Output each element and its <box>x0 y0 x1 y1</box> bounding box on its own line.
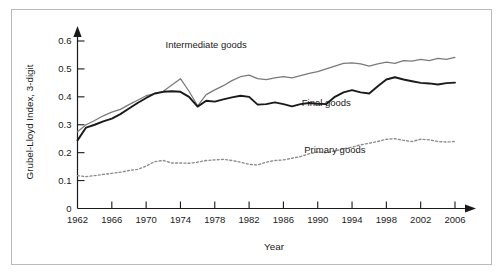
y-tick-label: 0.4 <box>58 91 71 102</box>
x-axis-arrow-icon <box>465 204 476 212</box>
x-tick-label: 1994 <box>341 214 362 225</box>
y-axis-ticks: 00.10.20.30.40.50.6 <box>58 35 84 214</box>
y-tick-label: 0.1 <box>58 175 71 186</box>
series-line-intermediate-goods <box>78 57 456 131</box>
x-tick-label: 1974 <box>170 214 191 225</box>
x-tick-label: 1970 <box>136 214 157 225</box>
y-axis-title: Grubel-Lloyd Index, 3-digit <box>24 64 35 179</box>
y-axis-arrow-icon <box>73 26 81 37</box>
y-tick-label: 0.5 <box>58 63 71 74</box>
x-tick-label: 1978 <box>204 214 225 225</box>
x-tick-label: 1966 <box>101 214 122 225</box>
x-tick-label: 1998 <box>376 214 397 225</box>
y-tick-label: 0.3 <box>58 119 71 130</box>
x-tick-label: 2006 <box>444 214 465 225</box>
series-paths <box>78 57 456 176</box>
x-axis-ticks: 1962196619701974197819821986199019941998… <box>67 202 466 225</box>
figure-frame: 00.10.20.30.40.50.6 19621966197019741978… <box>11 9 492 265</box>
x-tick-label: 2002 <box>410 214 431 225</box>
y-tick-label: 0.2 <box>58 147 71 158</box>
series-line-final-goods <box>78 77 456 140</box>
x-tick-label: 1986 <box>273 214 294 225</box>
x-tick-label: 1990 <box>307 214 328 225</box>
axes <box>73 26 476 213</box>
y-tick-label: 0.6 <box>58 35 71 46</box>
x-axis-title: Year <box>264 241 285 252</box>
series-label-intermediate-goods: Intermediate goods <box>166 39 248 50</box>
y-tick-label: 0 <box>66 203 71 214</box>
x-tick-label: 1982 <box>239 214 260 225</box>
series-line-primary-goods <box>78 139 456 177</box>
x-tick-label: 1962 <box>67 214 88 225</box>
series-annotations: Intermediate goodsFinal goodsPrimary goo… <box>166 39 366 155</box>
series-label-primary-goods: Primary goods <box>304 144 365 155</box>
line-chart: 00.10.20.30.40.50.6 19621966197019741978… <box>12 10 491 264</box>
series-label-final-goods: Final goods <box>302 97 351 108</box>
